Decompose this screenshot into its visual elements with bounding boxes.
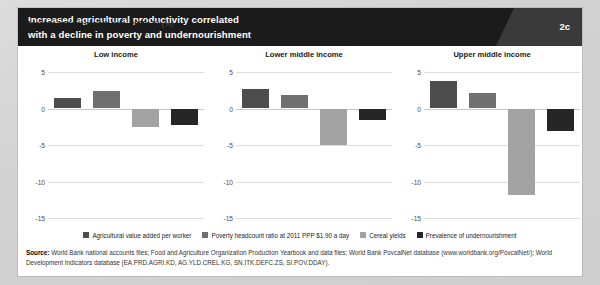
y-axis-tick: 0 xyxy=(229,105,233,112)
y-axis-tick: -5 xyxy=(415,142,421,149)
legend-swatch-icon xyxy=(417,232,423,238)
legend-item: Cereal yields xyxy=(360,232,405,239)
plot-area: 50-5-10-15 xyxy=(424,72,580,218)
page-background: Increased agricultural productivity corr… xyxy=(0,0,600,285)
y-axis-tick: -5 xyxy=(227,142,233,149)
bar xyxy=(430,81,457,108)
panel-title: Upper middle income xyxy=(402,50,582,59)
figure-title-line2: with a decline in poverty and undernouri… xyxy=(28,27,458,42)
bar xyxy=(242,89,269,109)
y-axis-tick: 5 xyxy=(41,69,45,76)
gridline xyxy=(48,72,204,73)
y-axis-label: Average annual growth rate, 2000–12 (%) xyxy=(26,19,211,28)
figure-number-badge: 2c xyxy=(559,21,570,32)
gridline xyxy=(424,182,580,183)
plot-area: 50-5-10-15 xyxy=(48,72,204,218)
bar xyxy=(281,95,308,108)
chart-panel-lower-middle-income: Lower middle income 50-5-10-15 xyxy=(214,50,394,222)
gridline xyxy=(236,182,392,183)
chart-panel-low-income: Low income 50-5-10-15 xyxy=(26,50,206,222)
y-axis-tick: 5 xyxy=(417,69,421,76)
gridline xyxy=(424,218,580,219)
legend-item: Poverty headcount ratio at 2011 PPP $1.9… xyxy=(202,232,349,239)
panel-title: Low income xyxy=(26,50,206,59)
bar xyxy=(132,109,159,127)
legend-label: Cereal yields xyxy=(369,232,405,239)
bar xyxy=(171,109,198,126)
y-axis-tick: 0 xyxy=(41,105,45,112)
panel-title: Lower middle income xyxy=(214,50,394,59)
gridline xyxy=(236,218,392,219)
legend-label: Poverty headcount ratio at 2011 PPP $1.9… xyxy=(211,232,349,239)
y-axis-tick: -15 xyxy=(223,215,233,222)
source-label: Source: xyxy=(26,249,49,256)
y-axis-tick: -15 xyxy=(35,215,45,222)
chart-legend: Agricultural value added per workerPover… xyxy=(18,228,582,242)
figure-card: Increased agricultural productivity corr… xyxy=(18,8,582,276)
legend-swatch-icon xyxy=(83,232,89,238)
bar xyxy=(359,109,386,121)
source-note: Source: World Bank national accounts fil… xyxy=(26,248,574,267)
y-axis-tick: 5 xyxy=(229,69,233,76)
y-axis-tick: -10 xyxy=(411,178,421,185)
legend-item: Prevalence of undernourishment xyxy=(417,232,517,239)
bar xyxy=(54,98,81,108)
y-axis-label-text: Average annual growth rate, 2000–12 xyxy=(26,19,160,28)
source-text: World Bank national accounts files; Food… xyxy=(26,249,552,266)
bar xyxy=(547,109,574,132)
y-axis-tick: 0 xyxy=(417,105,421,112)
gridlines: 50-5-10-15 xyxy=(48,72,204,218)
bar xyxy=(93,91,120,109)
gridline xyxy=(236,145,392,146)
y-axis-tick: -10 xyxy=(35,178,45,185)
legend-label: Agricultural value added per worker xyxy=(92,232,191,239)
bar xyxy=(508,109,535,195)
y-axis-label-unit: (%) xyxy=(162,19,174,28)
legend-swatch-icon xyxy=(360,232,366,238)
chart-panels: Low income 50-5-10-15 Lower middle incom… xyxy=(18,50,582,222)
y-axis-tick: -10 xyxy=(223,178,233,185)
chart-panel-upper-middle-income: Upper middle income 50-5-10-15 xyxy=(402,50,582,222)
legend-item: Agricultural value added per worker xyxy=(83,232,191,239)
gridline xyxy=(48,145,204,146)
y-axis-tick: -15 xyxy=(411,215,421,222)
gridline xyxy=(424,145,580,146)
y-axis-tick: -5 xyxy=(39,142,45,149)
legend-label: Prevalence of undernourishment xyxy=(426,232,517,239)
plot-area: 50-5-10-15 xyxy=(236,72,392,218)
bar xyxy=(320,109,347,146)
gridline xyxy=(424,72,580,73)
gridline xyxy=(236,72,392,73)
legend-swatch-icon xyxy=(202,232,208,238)
gridline xyxy=(48,218,204,219)
gridline xyxy=(48,182,204,183)
bar xyxy=(469,93,496,108)
